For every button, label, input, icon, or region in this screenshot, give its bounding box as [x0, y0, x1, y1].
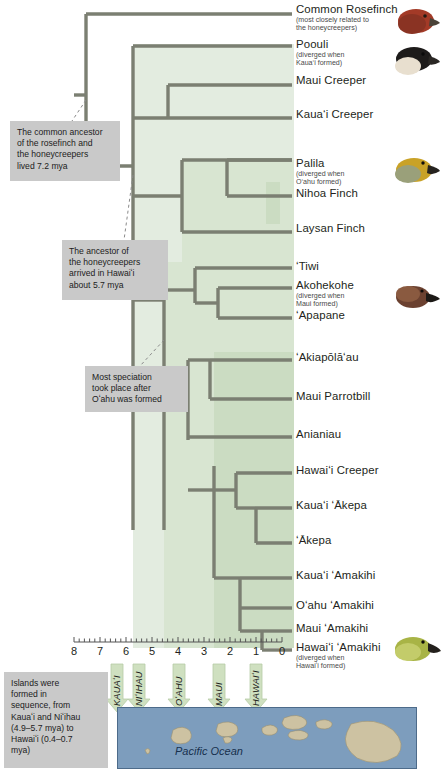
taxon-note-line: the honeycreepers) [296, 24, 398, 32]
taxon-note-line: (diverged when [296, 170, 345, 178]
bird-image-akohekohe [392, 278, 442, 312]
taxon-name: Maui Parrotbill [296, 391, 370, 403]
taxon-label: ʻAkiapōlāʻau [296, 352, 359, 364]
callout-speciation: Most speciationtook place afterOʻahu was… [85, 366, 188, 412]
bird-image-rosefinch [392, 4, 442, 38]
callout-line: the honeycreepers [17, 149, 113, 160]
axis-tick-label: 1 [253, 645, 259, 657]
taxon-name: Kaua‘i Creeper [296, 109, 373, 121]
taxon-label: Nihoa Finch [296, 188, 358, 200]
callout-line: lived 7.2 mya [17, 161, 113, 172]
taxon-name: ʻAkiapōlāʻau [296, 352, 359, 364]
axis-tick-label: 8 [71, 645, 77, 657]
axis-tick-label: 5 [149, 645, 155, 657]
taxon-name: Oʻahu ʻAmakihi [296, 600, 374, 612]
island-note-line: formed in [11, 689, 101, 700]
bird-image-palila [392, 152, 442, 186]
axis-tick-label: 6 [123, 645, 129, 657]
taxon-label: Anianiau [296, 429, 341, 441]
island-name: KAUAʻI [112, 675, 122, 706]
taxon-label: Palila(diverged whenO‘ahu formed) [296, 158, 345, 186]
taxon-name: Akohekohe [296, 280, 354, 292]
taxon-name: ʻApapane [296, 310, 345, 322]
taxon-label: Akohekohe(diverged whenMaui formed) [296, 280, 354, 308]
axis-tick-label: 2 [227, 645, 233, 657]
axis-tick-label: 0 [279, 645, 285, 657]
taxon-label: Maui ʻAmakihi [296, 623, 368, 635]
island-note-line: Kauaʻi and Niʻihau [11, 712, 101, 723]
callout-line: The ancestor of [69, 246, 161, 257]
island-note-line: mya) [11, 745, 101, 756]
taxon-name: ʻĀkepa [296, 535, 331, 547]
island-note-line: (4.9–5.7 mya) to [11, 723, 101, 734]
taxon-note-line: Maui formed) [296, 300, 354, 308]
taxon-note-line: Kaua‘i formed) [296, 59, 345, 67]
axis-ticks [0, 636, 443, 662]
taxon-label: Kauaʻi ʻAmakihi [296, 570, 375, 582]
taxon-name: Laysan Finch [296, 223, 365, 235]
taxon-name: Maui ʻAmakihi [296, 623, 368, 635]
island-name: MAUI [214, 682, 224, 706]
axis-tick-label: 4 [175, 645, 181, 657]
callout-line: of the rosefinch and [17, 138, 113, 149]
callout-line: Most speciation [92, 372, 181, 383]
taxon-name: Nihoa Finch [296, 188, 358, 200]
callout-line: about 5.7 mya [69, 280, 161, 291]
ocean-map [117, 707, 417, 769]
taxon-label: Oʻahu ʻAmakihi [296, 600, 374, 612]
taxon-label: Laysan Finch [296, 223, 365, 235]
ocean-label: Pacific Ocean [175, 745, 243, 757]
callout-line: took place after [92, 383, 181, 394]
taxon-name: Hawaiʻi Creeper [296, 465, 379, 477]
taxon-name: Kauaʻi ʻĀkepa [296, 500, 367, 512]
taxon-name: ʻTiwi [296, 261, 319, 273]
taxon-note-line: (diverged when [296, 292, 354, 300]
taxon-note-line: O‘ahu formed) [296, 178, 345, 186]
taxon-label: Poouli(diverged whenKaua‘i formed) [296, 39, 345, 67]
island-note-line: Islands were [11, 678, 101, 689]
taxon-name: Common Rosefinch [296, 4, 398, 16]
hawaii-islands-shapes [118, 708, 416, 768]
island-note-line: Hawaiʻi (0.4–0.7 [11, 734, 101, 745]
island-note-line: sequence, from [11, 700, 101, 711]
island-name: HAWAIʻI [251, 670, 261, 706]
taxon-name: Poouli [296, 39, 345, 51]
callout-line: Oʻahu was formed [92, 394, 181, 405]
callout-line: arrived in Hawaiʻi [69, 268, 161, 279]
island-name: OʻAHU [174, 676, 184, 706]
taxon-name: Maui Creeper [296, 75, 366, 87]
island-formation-note: Islands wereformed insequence, fromKauaʻ… [4, 672, 108, 768]
bird-image-poouli [392, 42, 442, 78]
axis-tick-label: 7 [97, 645, 103, 657]
tree-diagram: .br{fill:none;stroke:#7b7f72;stroke-widt… [0, 0, 443, 660]
taxon-note-line: (diverged when [296, 51, 345, 59]
taxon-note-line: (most closely related to [296, 16, 398, 24]
callout-line: the honeycreepers [69, 257, 161, 268]
taxon-label: Common Rosefinch(most closely related to… [296, 4, 398, 32]
callout-rosefinch-ancestor: The common ancestorof the rosefinch andt… [10, 121, 120, 181]
taxon-label: Maui Creeper [296, 75, 366, 87]
island-name: NIʻIHAU [134, 671, 144, 706]
callout-honeycreeper-arrival: The ancestor ofthe honeycreepersarrived … [62, 240, 168, 300]
phylogeny-figure: .br{fill:none;stroke:#7b7f72;stroke-widt… [0, 0, 443, 773]
taxon-name: Palila [296, 158, 345, 170]
taxon-label: ʻĀkepa [296, 535, 331, 547]
callout-line: The common ancestor [17, 127, 113, 138]
taxon-name: Anianiau [296, 429, 341, 441]
taxon-label: Kauaʻi ʻĀkepa [296, 500, 367, 512]
taxon-name: Kauaʻi ʻAmakihi [296, 570, 375, 582]
axis-tick-label: 3 [201, 645, 207, 657]
taxon-label: Hawaiʻi Creeper [296, 465, 379, 477]
taxon-label: Maui Parrotbill [296, 391, 370, 403]
time-axis: 876543210 [0, 636, 443, 662]
taxon-label: Kaua‘i Creeper [296, 109, 373, 121]
taxon-label: ʻApapane [296, 310, 345, 322]
taxon-label: ʻTiwi [296, 261, 319, 273]
